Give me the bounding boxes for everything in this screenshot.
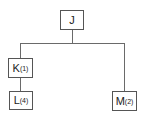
edge-j-to-m <box>124 43 125 91</box>
node-m: M(2) <box>112 91 137 111</box>
edge-k-to-l <box>20 77 21 91</box>
node-l-subscript: (4) <box>20 97 29 104</box>
node-k: K(1) <box>8 58 33 78</box>
edge-horizontal-bar <box>20 43 125 44</box>
node-l: L(4) <box>9 91 33 110</box>
edge-j-to-k <box>20 43 21 58</box>
node-m-subscript: (2) <box>125 98 134 105</box>
node-j-label: J <box>69 15 75 26</box>
node-j: J <box>60 10 84 30</box>
node-m-label: M <box>116 96 125 107</box>
edge-j-stem <box>72 29 73 43</box>
node-k-subscript: (1) <box>20 65 29 72</box>
node-k-label: K <box>13 63 20 74</box>
